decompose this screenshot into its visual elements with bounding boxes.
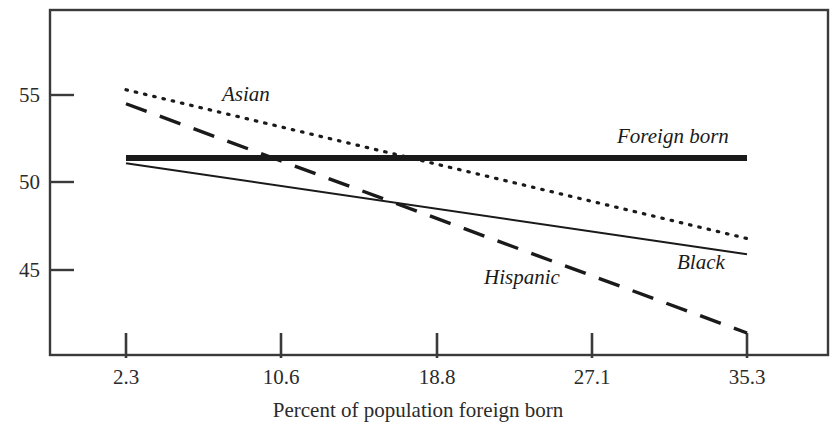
x-axis-title: Percent of population foreign born (273, 398, 563, 423)
x-tick-label: 35.3 (729, 365, 766, 390)
series-label-foreign-born: Foreign born (617, 124, 729, 149)
chart-figure: 555045 2.310.618.827.135.3 Asian Foreign… (0, 0, 836, 437)
series-label-black: Black (677, 250, 725, 275)
series-label-hispanic: Hispanic (484, 265, 560, 290)
y-tick-label: 45 (0, 258, 40, 283)
x-tick-label: 10.6 (263, 365, 300, 390)
x-tick-label: 2.3 (113, 365, 139, 390)
y-tick-label: 50 (0, 170, 40, 195)
series-label-asian: Asian (222, 82, 270, 107)
x-tick-label: 27.1 (574, 365, 611, 390)
x-tick-label: 18.8 (419, 365, 456, 390)
y-tick-label: 55 (0, 83, 40, 108)
